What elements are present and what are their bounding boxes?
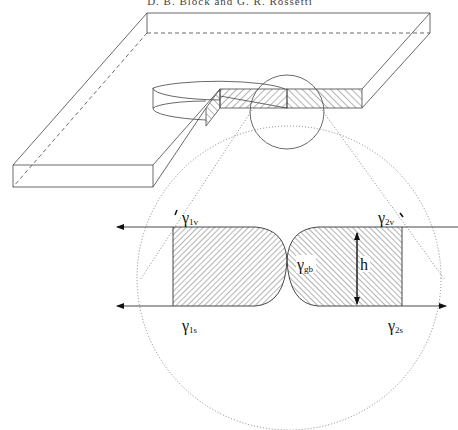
grain-left — [173, 227, 287, 306]
hatched-strip — [206, 89, 362, 126]
label-gamma-1s: γ1s — [181, 317, 198, 335]
gamma-2v-tick — [400, 213, 403, 217]
gamma-1v-tick — [175, 210, 177, 215]
page-caption: D. B. Block and G. R. Rossetti — [147, 0, 313, 7]
label-gamma-1v: γ1v — [181, 209, 199, 227]
label-height: h — [360, 256, 368, 273]
magnifier-circle — [250, 75, 324, 149]
label-gamma-2s: γ2s — [387, 317, 404, 335]
grain-boundary-diagram: D. B. Block and G. R. Rossetti — [0, 0, 458, 430]
label-gamma-2v: γ2v — [377, 209, 395, 227]
cross-section — [117, 210, 458, 306]
